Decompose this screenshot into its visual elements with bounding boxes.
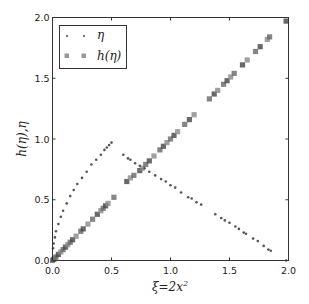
data-point-dot [134,162,137,165]
data-point-square [240,62,245,67]
y-tick-label: 0.0 [34,255,49,266]
data-point-dot [165,180,168,183]
data-point-square [175,129,180,134]
data-point-square [105,201,110,206]
y-tick-label: 1.0 [34,134,49,145]
data-point-dot [129,158,132,161]
data-point-dot [148,171,151,174]
data-point-dot [160,178,163,181]
data-point-square [207,96,212,101]
data-point-dot [169,184,172,187]
legend-label-eta: η [97,28,105,42]
data-point-dot [234,225,237,228]
data-point-dot [270,250,273,253]
data-point-dot [85,171,88,174]
data-point-square [182,122,187,127]
data-point-dot [242,231,245,234]
data-point-dot [106,146,109,149]
data-point-dot [228,222,231,225]
data-point-dot [214,213,217,216]
data-point-square [232,71,237,76]
data-point-square [85,222,90,227]
data-point-square [245,57,250,62]
data-point-dot [154,174,157,177]
data-point-dot [81,177,84,180]
data-point-dot [62,209,65,212]
data-point-dot [90,163,93,166]
data-point-dot [220,217,223,220]
y-tick-label: 0.5 [34,194,49,205]
series-eta [51,141,287,262]
data-point-dot [69,195,72,198]
data-point-dot [195,201,198,204]
data-point-dot [103,149,106,152]
data-point-dot [65,202,68,205]
data-point-dot [100,154,103,157]
data-point-square [74,234,79,239]
data-point-dot [224,219,227,222]
data-point-dot [262,245,265,248]
data-point-square [284,19,289,24]
data-point-dot [76,183,79,186]
data-point-dot [108,144,111,147]
data-point-dot [95,158,98,161]
data-point-dot [110,141,113,144]
y-tick-label: 2.0 [34,12,49,23]
data-point-square [81,226,86,231]
data-point-dot [245,233,248,236]
data-point-square [192,112,197,117]
x-tick-label: 2.0 [281,265,296,276]
x-axis-label: ξ=2x2 [152,279,188,294]
data-point-dot [127,157,130,160]
data-point-dot [122,154,125,157]
data-point-square [151,153,156,158]
data-point-dot [180,191,183,194]
data-point-square [147,158,152,163]
data-point-dot [257,240,260,243]
data-point-dot [190,197,193,200]
chart: 0.00.51.01.52.0 0.00.51.01.52.0 ξ=2x2 h(… [0,0,309,304]
x-tick-label: 1.5 [222,265,237,276]
data-point-dot [60,216,63,219]
x-tick-label: 0.0 [45,265,60,276]
data-point-square [258,44,263,49]
data-point-dot [187,196,190,199]
data-point-dot [238,228,241,231]
data-point-square [267,34,272,39]
data-point-square [111,195,116,200]
legend-marker-dot [66,35,68,37]
data-point-dot [72,189,75,192]
data-point-square [131,173,136,178]
y-tick-label: 1.5 [34,73,49,84]
data-point-dot [54,236,57,239]
legend-marker-square [82,54,87,59]
legend-marker-dot [83,35,85,37]
legend: η h(η) [60,26,127,69]
legend-marker-square [65,54,70,59]
data-point-dot [139,164,142,167]
y-axis-label: h(η),η [15,121,29,157]
legend-label-h-eta: h(η) [97,49,122,63]
data-point-square [215,88,220,93]
data-point-dot [267,248,270,251]
data-point-dot [252,237,255,240]
data-point-square [253,49,258,54]
data-point-dot [57,223,60,226]
x-tick-label: 1.0 [163,265,178,276]
data-point-dot [55,230,58,233]
data-point-square [90,217,95,222]
data-point-square [187,117,192,122]
data-point-dot [200,203,203,206]
data-point-dot [174,186,177,189]
data-point-dot [143,167,146,170]
x-tick-label: 0.5 [104,265,119,276]
